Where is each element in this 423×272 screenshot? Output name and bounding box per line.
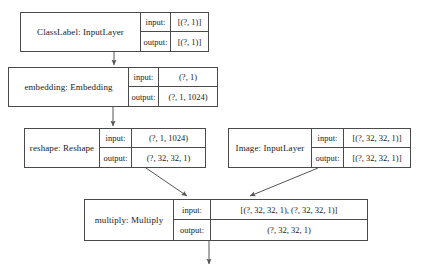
output-label: output: [174, 220, 211, 240]
node-reshape-io-table: input: (?, 1, 1024) output: (?, 32, 32, … [99, 129, 205, 167]
node-embedding-output-row: output: (?, 1, 1024) [129, 87, 217, 106]
node-embedding-input-row: input: (?, 1) [129, 68, 217, 87]
node-reshape-output-row: output: (?, 32, 32, 1) [100, 148, 205, 167]
node-classlabel-io-table: input: [(?, 1)] output: [(?, 1)] [140, 13, 208, 51]
node-image[interactable]: Image: InputLayer input: [(?, 32, 32, 1)… [228, 128, 411, 168]
node-classlabel[interactable]: ClassLabel: InputLayer input: [(?, 1)] o… [20, 12, 209, 52]
node-classlabel-input-row: input: [(?, 1)] [141, 13, 208, 32]
node-reshape[interactable]: reshape: Reshape input: (?, 1, 1024) out… [24, 128, 206, 168]
node-classlabel-output-row: output: [(?, 1)] [141, 32, 208, 51]
node-embedding-io-table: input: (?, 1) output: (?, 1, 1024) [128, 68, 217, 106]
node-image-title: Image: InputLayer [229, 129, 311, 167]
input-label: input: [174, 200, 211, 219]
node-reshape-title: reshape: Reshape [25, 129, 99, 167]
node-multiply-input-row: input: [(?, 32, 32, 1), (?, 32, 32, 1)] [174, 200, 367, 220]
node-reshape-input-shape: (?, 1, 1024) [132, 129, 205, 147]
node-multiply-title: multiply: Multiply [85, 200, 173, 240]
node-multiply-input-shape: [(?, 32, 32, 1), (?, 32, 32, 1)] [211, 200, 367, 219]
output-label: output: [129, 87, 159, 106]
node-image-input-row: input: [(?, 32, 32, 1)] [312, 129, 410, 148]
node-embedding-input-shape: (?, 1) [159, 68, 217, 86]
edge-image-to-multiply [250, 168, 318, 196]
node-classlabel-input-shape: [(?, 1)] [171, 13, 208, 31]
node-multiply-output-row: output: (?, 32, 32, 1) [174, 220, 367, 240]
input-label: input: [129, 68, 159, 86]
output-label: output: [100, 148, 132, 167]
output-label: output: [141, 32, 171, 51]
input-label: input: [100, 129, 132, 147]
node-multiply-io-table: input: [(?, 32, 32, 1), (?, 32, 32, 1)] … [173, 200, 367, 240]
node-embedding-title: embedding: Embedding [9, 68, 128, 106]
node-image-input-shape: [(?, 32, 32, 1)] [344, 129, 410, 147]
node-reshape-input-row: input: (?, 1, 1024) [100, 129, 205, 148]
node-multiply[interactable]: multiply: Multiply input: [(?, 32, 32, 1… [84, 199, 368, 241]
model-graph-canvas: ClassLabel: InputLayer input: [(?, 1)] o… [0, 0, 423, 272]
node-embedding[interactable]: embedding: Embedding input: (?, 1) outpu… [8, 67, 218, 107]
node-image-io-table: input: [(?, 32, 32, 1)] output: [(?, 32,… [311, 129, 410, 167]
node-image-output-row: output: [(?, 32, 32, 1)] [312, 148, 410, 167]
node-embedding-output-shape: (?, 1, 1024) [159, 87, 217, 106]
node-classlabel-output-shape: [(?, 1)] [171, 32, 208, 51]
edge-reshape-to-multiply [146, 168, 187, 196]
input-label: input: [141, 13, 171, 31]
node-reshape-output-shape: (?, 32, 32, 1) [132, 148, 205, 167]
input-label: input: [312, 129, 344, 147]
node-classlabel-title: ClassLabel: InputLayer [21, 13, 140, 51]
node-multiply-output-shape: (?, 32, 32, 1) [211, 220, 367, 240]
node-image-output-shape: [(?, 32, 32, 1)] [344, 148, 410, 167]
output-label: output: [312, 148, 344, 167]
